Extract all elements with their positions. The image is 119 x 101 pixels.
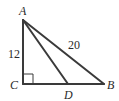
triangle-diagram: A C D B 12 20 — [0, 0, 119, 101]
length-label-ac: 12 — [8, 47, 20, 61]
right-angle-marker — [23, 74, 33, 84]
vertex-label-c: C — [10, 78, 19, 92]
segment-ab — [23, 20, 104, 84]
vertex-label-d: D — [63, 88, 73, 101]
vertex-label-b: B — [107, 78, 115, 92]
length-label-ab: 20 — [68, 38, 80, 52]
vertex-label-a: A — [18, 4, 27, 18]
